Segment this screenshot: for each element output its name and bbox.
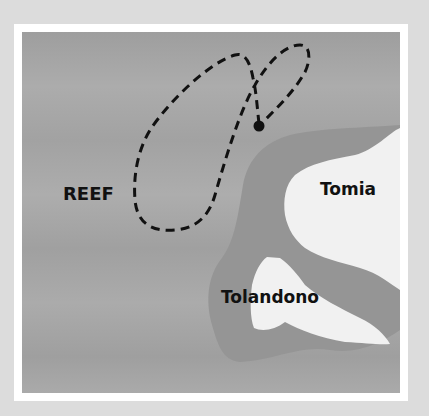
label-tolandono: Tolandono [221, 289, 319, 306]
label-tomia: Tomia [320, 181, 376, 198]
map-canvas: REEF Tomia Tolandono [22, 32, 400, 393]
label-reef: REEF [63, 185, 114, 203]
dive-site-marker [254, 121, 265, 132]
